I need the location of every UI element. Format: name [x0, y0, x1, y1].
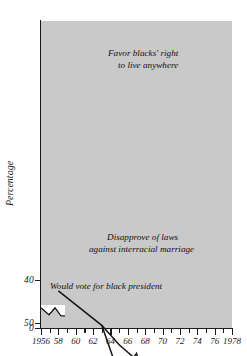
annotation-favor-line1: Favor blacks' right [108, 48, 178, 60]
series-line-disapprove-interracial-marriage-laws [102, 325, 232, 356]
annotation-favor-line2: to live anywhere [108, 60, 178, 72]
annotation-disapprove-line1: Disapprove of laws [107, 232, 194, 244]
annotation-president-line1: Would vote for black president [50, 281, 162, 293]
chart-container: Percentage 1009080706050400 195658606264… [0, 0, 247, 356]
annotation-favor-blacks-right: Favor blacks' right to live anywhere [108, 48, 178, 71]
annotation-would-vote-black-president: Would vote for black president [50, 281, 162, 293]
annotation-disapprove-line2: against interracial marriage [89, 244, 194, 256]
annotation-disapprove-laws: Disapprove of laws against interracial m… [107, 232, 194, 255]
series-line-would-vote-black-president [58, 291, 232, 356]
